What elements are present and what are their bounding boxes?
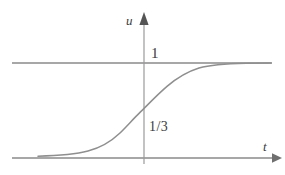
u-axis-arrowhead-icon <box>139 12 148 25</box>
plot-canvas <box>0 0 285 175</box>
figure-container: u t 1 1/3 <box>0 0 285 175</box>
t-axis-label: t <box>263 140 267 153</box>
initial-value-label-one-third: 1/3 <box>149 120 168 134</box>
solution-curve <box>38 63 271 156</box>
asymptote-value-label-one: 1 <box>151 46 159 61</box>
u-axis-label: u <box>126 14 133 27</box>
t-axis-arrowhead-icon <box>272 153 282 163</box>
